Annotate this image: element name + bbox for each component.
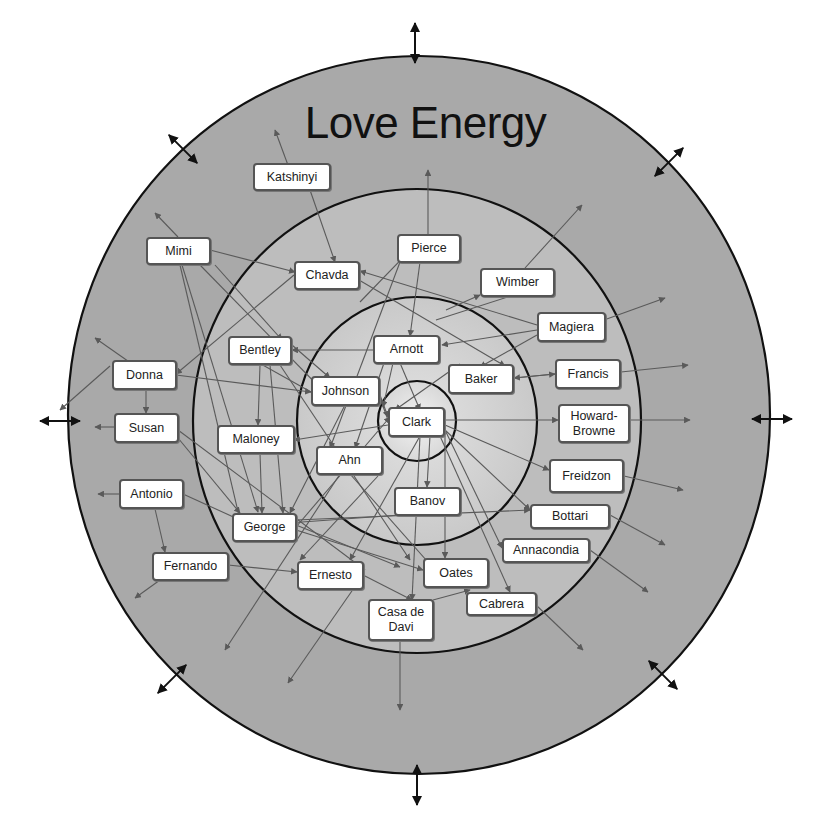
love-energy-diagram: Love Energy KatshinyiMimiChavdaPierceWim… — [0, 0, 839, 825]
node-bentley: Bentley — [228, 336, 292, 365]
node-annacondia: Annacondia — [502, 538, 590, 563]
node-freidzon: Freidzon — [549, 459, 624, 493]
node-wimber: Wimber — [480, 268, 555, 297]
node-howard-browne: Howard- Browne — [558, 404, 630, 443]
node-mimi: Mimi — [146, 237, 211, 265]
node-banov: Banov — [394, 487, 461, 516]
node-ahn: Ahn — [316, 446, 383, 475]
node-katshinyi: Katshinyi — [253, 163, 331, 191]
node-arnott: Arnott — [373, 335, 440, 364]
node-johnson: Johnson — [311, 376, 380, 406]
node-casa-de-davi: Casa de Davi — [368, 599, 434, 641]
node-francis: Francis — [555, 359, 621, 389]
node-donna: Donna — [112, 360, 177, 390]
node-baker: Baker — [448, 364, 514, 394]
node-clark: Clark — [388, 407, 445, 437]
node-george: George — [232, 513, 297, 542]
node-susan: Susan — [114, 413, 179, 443]
node-bottari: Bottari — [530, 504, 610, 529]
node-cabrera: Cabrera — [466, 592, 537, 616]
diagram-title: Love Energy — [0, 98, 839, 148]
node-antonio: Antonio — [119, 479, 184, 509]
node-chavda: Chavda — [294, 261, 360, 290]
node-pierce: Pierce — [397, 234, 461, 263]
node-maloney: Maloney — [217, 425, 295, 454]
node-oates: Oates — [423, 558, 489, 588]
node-magiera: Magiera — [537, 312, 606, 342]
node-ernesto: Ernesto — [297, 561, 364, 590]
node-fernando: Fernando — [152, 552, 229, 581]
